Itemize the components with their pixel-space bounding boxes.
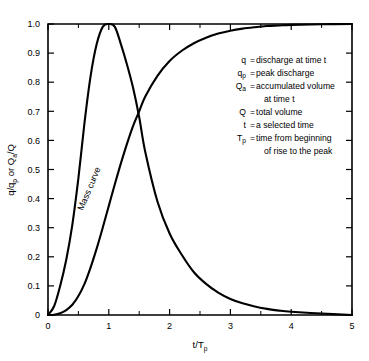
y-tick-label: 0.7 xyxy=(27,107,40,117)
legend-equals: = xyxy=(250,120,255,130)
y-tick-label: 0.5 xyxy=(27,165,40,175)
legend-symbol: Q xyxy=(239,107,246,117)
y-tick-label: 0 xyxy=(35,310,40,320)
legend-entry: qp=peak discharge xyxy=(238,68,315,80)
y-tick-label: 0.1 xyxy=(27,281,40,291)
x-tick-label: 3 xyxy=(228,321,233,331)
y-tick-label: 0.6 xyxy=(27,136,40,146)
x-tick-label: 0 xyxy=(45,321,50,331)
legend-symbol: qp xyxy=(238,68,247,80)
svg-text:t/Tp: t/Tp xyxy=(193,339,208,353)
y-title-a: q/q xyxy=(5,183,16,196)
legend: q=discharge at time tqp=peak dischargeQa… xyxy=(236,55,335,156)
legend-symbol-sub: p xyxy=(242,72,246,80)
y-tick-label: 0.9 xyxy=(27,48,40,58)
legend-definition: total volume xyxy=(256,107,303,117)
legend-definition: a selected time xyxy=(256,120,314,130)
x-tick-label: 5 xyxy=(349,321,354,331)
legend-symbol: q xyxy=(241,55,246,65)
legend-definition: time from beginning xyxy=(256,133,332,143)
legend-equals: = xyxy=(250,133,255,143)
legend-entry: t=a selected time xyxy=(244,120,314,130)
legend-equals: = xyxy=(250,55,255,65)
y-tick-label: 0.8 xyxy=(27,77,40,87)
legend-definition: accumulated volume xyxy=(256,81,335,91)
legend-symbol-main: Q xyxy=(239,107,246,117)
legend-symbol-sub: p xyxy=(242,137,246,145)
legend-symbol: Tp xyxy=(237,133,246,145)
figure-container: 012345 00.10.20.30.40.50.60.70.80.91.0 M… xyxy=(0,0,369,361)
legend-entry: Qa=accumulated volume xyxy=(236,81,335,92)
y-axis-tick-labels: 00.10.20.30.40.50.60.70.80.91.0 xyxy=(27,19,40,320)
legend-symbol-main: t xyxy=(244,120,247,130)
legend-entry: Q=total volume xyxy=(239,107,302,117)
legend-equals: = xyxy=(250,68,255,78)
y-tick-label: 0.4 xyxy=(27,194,40,204)
y-tick-label: 1.0 xyxy=(27,19,40,29)
svg-text:q/qp or Qa/Q: q/qp or Qa/Q xyxy=(5,144,19,196)
x-axis-title: t/Tp xyxy=(193,339,208,353)
y-axis-title: q/qp or Qa/Q xyxy=(5,144,19,196)
x-tick-label: 1 xyxy=(106,321,111,331)
dimensionless-unit-hydrograph-chart: 012345 00.10.20.30.40.50.60.70.80.91.0 M… xyxy=(0,0,369,361)
x-tick-label: 4 xyxy=(289,321,294,331)
legend-definition: peak discharge xyxy=(256,68,315,78)
legend-definition-cont: of rise to the peak xyxy=(264,146,333,156)
x-tick-label: 2 xyxy=(167,321,172,331)
y-tick-label: 0.3 xyxy=(27,223,40,233)
legend-symbol: t xyxy=(244,120,247,130)
x-title-sub: p xyxy=(204,345,208,353)
legend-symbol-sub: a xyxy=(242,85,246,92)
y-tick-label: 0.2 xyxy=(27,252,40,262)
legend-symbol-main: q xyxy=(241,55,246,65)
legend-definition: discharge at time t xyxy=(256,55,327,65)
x-axis-tick-labels: 012345 xyxy=(45,321,354,331)
legend-entry: Tp=time from beginning xyxy=(237,133,332,145)
y-title-c: /Q xyxy=(5,144,16,154)
y-title-b: or Q xyxy=(5,158,16,179)
legend-equals: = xyxy=(250,107,255,117)
legend-entry: q=discharge at time t xyxy=(241,55,327,65)
legend-definition-cont: at time t xyxy=(264,94,295,104)
legend-symbol: Qa xyxy=(236,81,247,92)
x-title-main: t/T xyxy=(193,339,204,350)
legend-equals: = xyxy=(250,81,255,91)
